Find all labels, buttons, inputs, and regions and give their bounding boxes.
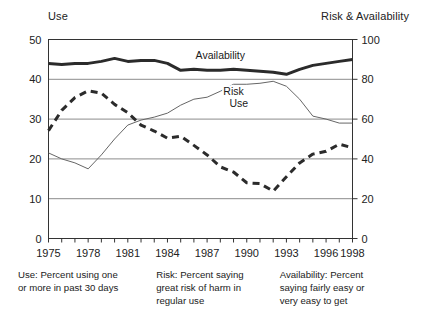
left-tick-label: 0 — [35, 233, 41, 245]
left-tick-label: 30 — [29, 113, 41, 125]
right-tick-label: 0 — [362, 233, 368, 245]
footnote-row: Use: Percent using one or more in past 3… — [0, 268, 423, 307]
footnote-risk: Risk: Percent saying great risk of harm … — [156, 268, 279, 307]
x-tick-label: 1987 — [195, 247, 219, 259]
right-tick-label: 20 — [362, 193, 374, 205]
x-tick-label: 1990 — [235, 247, 259, 259]
series-line-risk — [49, 81, 353, 169]
series-label-use: Use — [229, 97, 248, 109]
left-tick-label: 20 — [29, 153, 41, 165]
left-tick-label: 40 — [29, 73, 41, 85]
series-line-use — [49, 91, 353, 191]
x-tick-label: 1998 — [340, 247, 364, 259]
x-tick-label: 1978 — [76, 247, 100, 259]
right-tick-label: 40 — [362, 153, 374, 165]
x-tick-label: 1975 — [36, 247, 60, 259]
footnote-use: Use: Percent using one or more in past 3… — [18, 268, 156, 307]
x-tick-label: 1981 — [116, 247, 140, 259]
x-tick-label: 1996 — [314, 247, 338, 259]
x-tick-label: 1984 — [155, 247, 179, 259]
series-label-risk: Risk — [223, 85, 244, 97]
right-tick-label: 80 — [362, 73, 374, 85]
left-tick-label: 10 — [29, 193, 41, 205]
x-tick-label: 1993 — [274, 247, 298, 259]
right-tick-label: 60 — [362, 113, 374, 125]
chart-figure: Use Risk & Availability 0102030405002040… — [0, 0, 423, 318]
footnote-availability: Availability: Percent saying fairly easy… — [280, 268, 405, 307]
right-tick-label: 100 — [362, 34, 380, 46]
plot-area: 0102030405002040608010019751978198119841… — [0, 0, 423, 268]
left-tick-label: 50 — [29, 34, 41, 46]
series-label-availability: Availability — [196, 49, 246, 61]
